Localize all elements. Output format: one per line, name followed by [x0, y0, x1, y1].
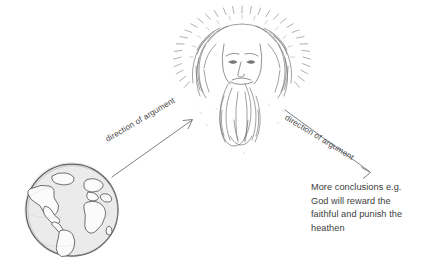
- god-beard: [220, 84, 260, 146]
- conclusions-line-4: heathen: [311, 222, 437, 236]
- conclusions-line-1: More conclusions e.g.: [311, 181, 437, 195]
- sketch-specks: [200, 104, 284, 154]
- conclusions-line-3: faithful and punish the: [311, 208, 437, 222]
- god-hair: [192, 24, 291, 98]
- bearded-god-sketch: [174, 6, 311, 154]
- god-face: [222, 44, 262, 85]
- earth-globe-sketch: [25, 163, 118, 257]
- halo-inner-marks: [189, 15, 294, 57]
- conclusions-line-2: God will reward the: [311, 195, 437, 209]
- conclusions-text: More conclusions e.g. God will reward th…: [311, 181, 437, 235]
